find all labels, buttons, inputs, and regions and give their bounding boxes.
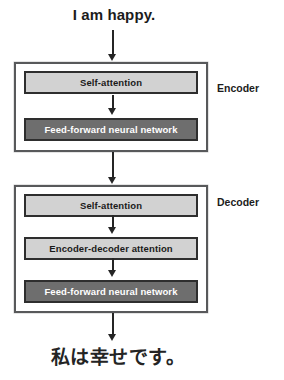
decoder-label: Decoder (217, 196, 259, 208)
arrow-head (108, 177, 116, 184)
arrow-head (108, 54, 116, 61)
arrow-head (108, 227, 116, 234)
output-sentence-label: 私は幸せです。 (0, 342, 236, 369)
arrow-head (108, 108, 116, 115)
encoder-feed-forward-layer: Feed-forward neural network (24, 118, 198, 141)
decoder-encoder-decoder-attention-layer: Encoder-decoder attention (24, 237, 198, 260)
decoder-feed-forward-layer: Feed-forward neural network (24, 280, 198, 303)
encoder-label: Encoder (217, 82, 259, 94)
arrow-shaft (112, 30, 115, 55)
arrow-shaft (112, 152, 115, 178)
arrow-head (108, 270, 116, 277)
arrow-shaft (112, 313, 115, 335)
encoder-self-attention-layer: Self-attention (24, 71, 198, 94)
decoder-block: Self-attention Encoder-decoder attention… (14, 185, 208, 313)
arrow-head (108, 334, 116, 341)
input-sentence-label: I am happy. (0, 6, 228, 23)
arrow-shaft (112, 95, 115, 109)
transformer-diagram: I am happy. Self-attention Feed-forward … (0, 0, 284, 380)
decoder-self-attention-layer: Self-attention (24, 194, 198, 217)
